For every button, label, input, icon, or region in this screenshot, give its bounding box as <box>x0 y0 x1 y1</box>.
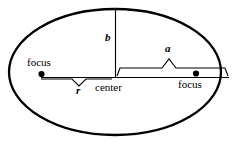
focus-left-label: focus <box>27 57 51 68</box>
diagram-canvas <box>0 0 238 144</box>
focus-right-label: focus <box>178 79 202 90</box>
ellipse-diagram: focus focus center a b r <box>0 0 238 144</box>
semi-minor-axis-label: b <box>105 32 111 43</box>
focus-left-point <box>38 71 44 77</box>
semi-major-axis-label: a <box>165 43 171 54</box>
focus-right-point <box>193 70 199 76</box>
center-label: center <box>95 82 122 93</box>
brace-a <box>117 59 228 76</box>
radius-label: r <box>76 85 80 96</box>
